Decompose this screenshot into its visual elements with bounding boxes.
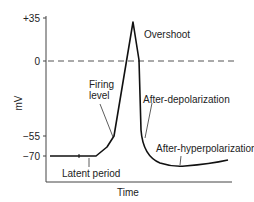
x-axis-label: Time [117, 187, 139, 198]
ytick-label-0: 0 [34, 56, 40, 67]
ytick-label-55: −55 [23, 131, 40, 142]
firing-level-label-1: Firing [89, 79, 114, 90]
firing-level-label-2: level [89, 90, 110, 101]
ytick-label-35: +35 [23, 13, 40, 24]
after-depolarization-label: After-depolarization [143, 94, 230, 105]
overshoot-label: Overshoot [144, 29, 190, 40]
firing-level-leader [100, 104, 113, 137]
latent-period-label: Latent period [62, 168, 120, 179]
ytick-label-70: −70 [23, 151, 40, 162]
after-hyperpolarization-leader [180, 156, 181, 165]
after-depolarization-leader [145, 103, 152, 138]
action-potential-diagram: +35 0 −55 −70 mV Time Overshoot Firing l… [0, 0, 254, 202]
after-hyperpolarization-label: After-hyperpolarization [156, 143, 254, 154]
y-axis-label: mV [13, 95, 24, 110]
